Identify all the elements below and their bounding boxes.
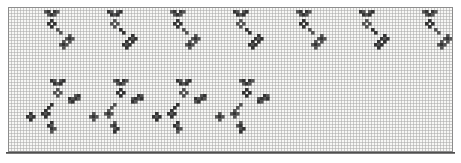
stitch-cell xyxy=(431,13,435,17)
stitch-cell xyxy=(185,31,189,35)
stitch-cell xyxy=(92,118,96,122)
stitch-cell xyxy=(245,94,249,98)
stitch-cell xyxy=(374,31,378,35)
stitch-cell xyxy=(107,115,111,119)
stitch-cell xyxy=(44,115,48,119)
stitch-cell xyxy=(50,25,54,29)
pattern-sheet xyxy=(0,0,461,163)
stitch-cell xyxy=(314,46,318,50)
stitch-cell xyxy=(113,130,117,134)
stitch-cell xyxy=(203,97,207,101)
stitch-cell xyxy=(122,31,126,35)
pattern-grid xyxy=(0,0,461,163)
stitch-cell xyxy=(179,13,183,17)
stitch-cell xyxy=(59,31,63,35)
stitch-cell xyxy=(182,94,186,98)
stitch-cell xyxy=(239,25,243,29)
stitch-cell xyxy=(266,97,270,101)
stitch-cell xyxy=(428,25,432,29)
stitch-cell xyxy=(440,46,444,50)
stitch-cell xyxy=(251,46,255,50)
stitch-cell xyxy=(368,13,372,17)
stitch-cell xyxy=(311,31,315,35)
stitch-cell xyxy=(188,46,192,50)
stitch-cell xyxy=(365,25,369,29)
stitch-cell xyxy=(302,25,306,29)
stitch-cell xyxy=(62,46,66,50)
stitch-cell xyxy=(197,100,201,104)
stitch-cell xyxy=(170,115,174,119)
stitch-cell xyxy=(53,13,57,17)
stitch-cell xyxy=(185,82,189,86)
stitch-cell xyxy=(77,97,81,101)
stitch-cell xyxy=(122,82,126,86)
stitch-cell xyxy=(377,46,381,50)
stitch-cell xyxy=(134,100,138,104)
stitch-cell xyxy=(119,94,123,98)
stitch-cell xyxy=(155,118,159,122)
stitch-cell xyxy=(56,94,60,98)
stitch-cell xyxy=(233,115,237,119)
stitch-cell xyxy=(125,46,129,50)
stitch-cell xyxy=(116,13,120,17)
stitch-cell xyxy=(176,130,180,134)
stitch-cell xyxy=(140,97,144,101)
stitch-cell xyxy=(29,118,33,122)
stitch-cell xyxy=(71,100,75,104)
stitch-cell xyxy=(260,100,264,104)
stitch-cell xyxy=(239,130,243,134)
stitch-cell xyxy=(437,31,441,35)
stitch-cell xyxy=(242,13,246,17)
stitch-cell xyxy=(248,82,252,86)
stitch-cell xyxy=(248,31,252,35)
stitch-cell xyxy=(218,118,222,122)
stitch-cell xyxy=(176,25,180,29)
stitch-cell xyxy=(305,13,309,17)
stitch-cell xyxy=(113,25,117,29)
stitch-cell xyxy=(59,82,63,86)
stitch-cell xyxy=(50,130,54,134)
